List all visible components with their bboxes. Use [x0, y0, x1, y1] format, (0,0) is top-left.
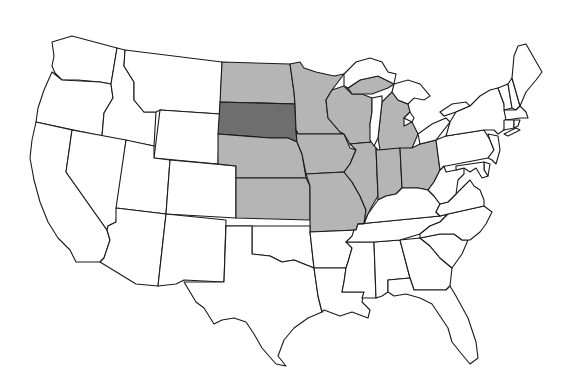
state-colorado	[166, 160, 236, 218]
state-montana	[124, 50, 222, 114]
us-map-svg	[0, 0, 569, 386]
state-new-mexico	[158, 214, 226, 286]
state-rhode-island	[514, 120, 520, 128]
state-north-dakota[interactable]	[220, 62, 295, 104]
state-florida	[388, 278, 478, 364]
us-map: United States map — Midwest region highl…	[0, 0, 569, 386]
state-kansas[interactable]	[236, 178, 310, 220]
state-connecticut	[504, 120, 514, 130]
state-washington	[52, 36, 117, 84]
state-wyoming	[154, 110, 220, 164]
